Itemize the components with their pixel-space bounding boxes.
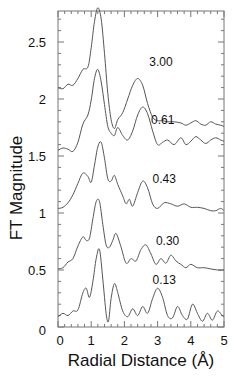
plot-frame: [58, 11, 224, 327]
y-axis-title: FT Magnitude: [7, 136, 26, 241]
curve-label-3-00: 3.00: [149, 55, 173, 69]
x-tick-label: 1: [88, 333, 95, 348]
curve-3-00: [58, 8, 224, 129]
x-axis-title: Radial Distance (Å): [68, 351, 214, 370]
y-tick-label: 1.5: [28, 149, 46, 164]
y-tick-label: 2.5: [28, 35, 46, 50]
x-tick-label: 4: [187, 333, 194, 348]
y-tick-labels: 00.511.522.5: [28, 35, 46, 338]
curve-0-13: [58, 249, 224, 322]
curve-label-0-30: 0.30: [156, 234, 180, 248]
ft-magnitude-chart: 012345 00.511.522.5 3.000.610.430.300.13…: [0, 0, 237, 379]
axis-ticks: [58, 11, 224, 327]
ft-curves: [58, 8, 224, 322]
y-tick-label: 1: [39, 206, 46, 221]
x-tick-label: 3: [154, 333, 161, 348]
curve-label-0-43: 0.43: [153, 172, 177, 186]
curve-labels: 3.000.610.430.300.13: [149, 55, 179, 287]
curve-label-0-61: 0.61: [151, 113, 175, 127]
x-tick-label: 2: [121, 333, 128, 348]
x-tick-label: 0: [56, 333, 63, 348]
y-tick-label: 2: [39, 92, 46, 107]
x-tick-label: 5: [220, 333, 227, 348]
curve-0-30: [58, 199, 224, 270]
y-tick-label: 0.5: [28, 263, 46, 278]
curve-0-43: [58, 142, 224, 211]
x-tick-labels: 012345: [56, 333, 227, 348]
curve-label-0-13: 0.13: [153, 273, 177, 287]
plot-border: [58, 11, 224, 327]
y-tick-label: 0: [39, 323, 46, 338]
